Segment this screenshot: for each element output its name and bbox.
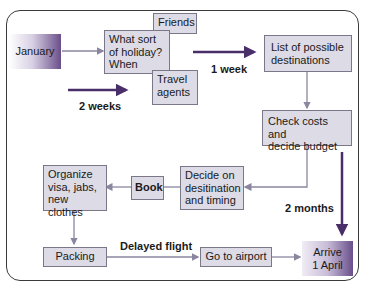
node-travel-agents: Travel agents xyxy=(152,70,198,105)
node-label: Book xyxy=(135,181,163,193)
line: List of possible xyxy=(271,41,345,54)
node-label: Go to airport xyxy=(205,250,266,262)
label-1-week: 1 week xyxy=(211,63,247,75)
node-check-costs: Check costs and decide budget xyxy=(262,110,352,146)
line: What sort xyxy=(109,33,165,46)
label-delayed-flight: Delayed flight xyxy=(120,240,192,252)
line: visa, jabs, xyxy=(48,181,102,194)
line: Organize xyxy=(48,168,102,181)
line: Decide on xyxy=(185,169,239,182)
node-arrive: Arrive 1 April xyxy=(302,241,353,276)
node-decide: Decide on desitination and timing xyxy=(180,166,244,210)
node-go-to-airport: Go to airport xyxy=(200,247,272,267)
node-label: Packing xyxy=(55,250,94,262)
label-2-weeks: 2 weeks xyxy=(79,100,121,112)
line: agents xyxy=(157,86,193,99)
node-what-sort: What sort of holiday? When xyxy=(104,30,170,74)
line: of holiday? xyxy=(109,46,165,59)
node-label: January xyxy=(15,45,54,58)
line: desitination xyxy=(185,182,239,195)
node-list-destinations: List of possible destinations xyxy=(264,35,352,72)
node-packing: Packing xyxy=(43,247,107,267)
line: destinations xyxy=(271,54,345,67)
line: decide budget xyxy=(268,140,346,153)
line: Check costs and xyxy=(268,115,346,140)
line: 1 April xyxy=(312,259,343,272)
node-book: Book xyxy=(131,176,164,200)
node-label: Friends xyxy=(158,16,195,28)
line: and timing xyxy=(185,194,239,207)
label-2-months: 2 months xyxy=(285,202,334,214)
line: Travel xyxy=(157,73,193,86)
line: When xyxy=(109,58,165,71)
line: new clothes xyxy=(48,193,102,218)
node-organize: Organize visa, jabs, new clothes xyxy=(43,165,107,211)
node-january: January xyxy=(9,34,61,69)
line: Arrive xyxy=(313,246,342,259)
